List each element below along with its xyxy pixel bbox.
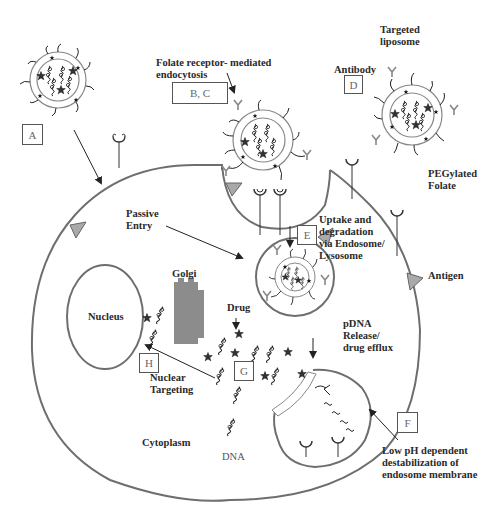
label-golgi: Golgi [172, 268, 197, 280]
box-g: G [234, 361, 254, 381]
label-pegylated-folate: PEGylated Folate [428, 168, 477, 192]
label-low-ph: Low pH dependent destabilization of endo… [382, 445, 477, 481]
label-dna: DNA [222, 451, 245, 463]
box-bc: B, C [172, 82, 228, 104]
label-nuclear-targeting: Nuclear Targeting [150, 372, 193, 396]
box-a: A [22, 124, 43, 145]
label-nucleus: Nucleus [88, 311, 124, 323]
label-targeted-liposome: Targeted liposome [380, 24, 420, 48]
antigen-marker [70, 222, 86, 238]
box-d: D [344, 75, 363, 94]
arrow-passive-entry [166, 226, 242, 258]
folate-receptor-top-left [113, 134, 125, 168]
diagram-canvas: Folate receptor- mediated endocytosis Ta… [0, 0, 501, 529]
golgi-apparatus [174, 278, 204, 344]
targeted-liposome-d [372, 67, 458, 155]
liposome-a [20, 44, 94, 116]
box-e: E [297, 225, 317, 245]
box-f: F [397, 412, 418, 433]
endocytic-pit [195, 165, 330, 229]
label-antigen: Antigen [428, 270, 464, 282]
antigen-marker [407, 273, 423, 290]
label-folate-endocytosis: Folate receptor- mediated endocytosis [156, 57, 271, 81]
label-cytoplasm: Cytoplasm [142, 437, 190, 449]
label-passive-entry: Passive Entry [126, 208, 159, 232]
label-drug: Drug [227, 302, 250, 314]
arrow-a-entry [74, 130, 101, 183]
label-uptake: Uptake and degradation via Endosome/ Lys… [319, 214, 385, 262]
box-h: H [139, 353, 159, 373]
destabilized-endosome [272, 370, 371, 468]
liposome-endocytosing [222, 100, 311, 180]
label-pdna-release: pDNA Release/ drug efflux [343, 318, 393, 354]
arrow-low-ph [370, 410, 398, 440]
